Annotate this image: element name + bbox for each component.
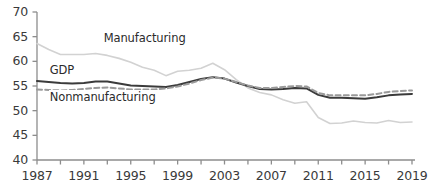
x-axis-tick-label: 1999 bbox=[158, 168, 198, 183]
line-chart: 40455055606570 1987199119951999200320072… bbox=[0, 0, 431, 194]
x-axis-tick-label: 2011 bbox=[298, 168, 338, 183]
x-axis-tick-label: 1991 bbox=[64, 168, 104, 183]
y-axis-tick-label: 60 bbox=[2, 53, 28, 68]
x-axis-tick-label: 2003 bbox=[205, 168, 245, 183]
x-axis-tick-label: 1987 bbox=[17, 168, 57, 183]
series-label-gdp: GDP bbox=[49, 63, 75, 77]
x-axis-tick-label: 2007 bbox=[251, 168, 291, 183]
x-axis-tick-label: 1995 bbox=[111, 168, 151, 183]
y-axis-tick-label: 65 bbox=[2, 29, 28, 44]
y-axis-tick-label: 45 bbox=[2, 127, 28, 142]
y-axis-tick-label: 70 bbox=[2, 4, 28, 19]
series-line-manufacturing bbox=[37, 44, 412, 124]
series-label-manufacturing: Manufacturing bbox=[103, 31, 187, 45]
series-label-nonmanufacturing: Nonmanufacturing bbox=[49, 90, 157, 104]
y-axis-tick-label: 55 bbox=[2, 78, 28, 93]
x-axis-tick-label: 2015 bbox=[345, 168, 385, 183]
y-axis-tick-label: 50 bbox=[2, 103, 28, 118]
x-axis-tick-label: 2019 bbox=[392, 168, 431, 183]
y-axis-tick-label: 40 bbox=[2, 152, 28, 167]
